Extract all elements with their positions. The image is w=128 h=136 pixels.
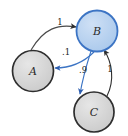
node-a[interactable]: A (13, 51, 54, 92)
node-c[interactable]: C (74, 92, 114, 132)
node-b-label: B (92, 25, 101, 38)
edge-label-b-to-c: .9 (79, 65, 87, 75)
edge-label-b-to-a: .1 (62, 47, 70, 57)
edge-label-a-to-b: 1 (57, 17, 62, 27)
edge-label-c-to-b: 1 (107, 64, 112, 74)
node-group: A B C (13, 11, 118, 133)
state-transition-diagram: A B C 1 .1 .9 1 (0, 0, 128, 136)
node-c-label: C (90, 106, 99, 119)
diagram-canvas: A B C 1 .1 .9 1 (0, 0, 128, 136)
node-a-label: A (28, 65, 37, 78)
node-b[interactable]: B (77, 11, 118, 52)
